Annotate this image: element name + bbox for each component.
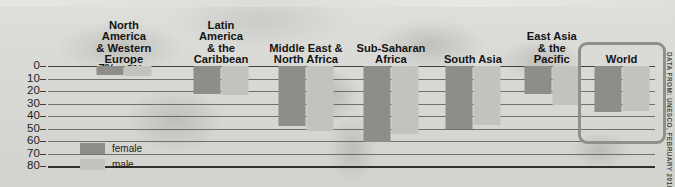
legend-item-female: female	[80, 142, 142, 155]
y-axis-tickmark-60	[40, 141, 46, 142]
bar-male[interactable]	[221, 66, 248, 95]
group-bars: 22%23%	[193, 66, 248, 166]
bar-fill	[445, 66, 472, 129]
group-label: North America & Western Europe	[76, 20, 172, 66]
group-label: World	[574, 54, 670, 66]
chart-legend: female male	[80, 142, 142, 174]
bar-fill	[363, 66, 390, 142]
y-axis-tickmark-10	[40, 79, 46, 80]
legend-swatch-male	[80, 159, 105, 170]
legend-label-male: male	[112, 159, 134, 170]
bar-fill	[96, 66, 123, 75]
legend-label-female: female	[112, 143, 142, 154]
y-axis-tickmark-40	[40, 116, 46, 117]
y-axis-tickmark-50	[40, 129, 46, 130]
group-bars: 61%54%	[363, 66, 418, 166]
bar-female[interactable]	[96, 66, 123, 75]
y-axis-tick-50: 50	[27, 123, 40, 135]
bar-fill	[306, 66, 333, 131]
y-axis-tick-80: 80	[27, 160, 40, 172]
y-axis-tick-30: 30	[27, 98, 40, 110]
bar-group-world: World37%36%	[562, 6, 675, 182]
y-axis-tick-60: 60	[27, 135, 40, 147]
y-axis-tickmark-30	[40, 104, 46, 105]
bar-female[interactable]	[278, 66, 305, 126]
bar-fill	[594, 66, 621, 112]
y-axis-tickmark-70	[40, 154, 46, 155]
bar-fill	[278, 66, 305, 126]
bar-male[interactable]	[306, 66, 333, 131]
y-axis-tickmark-80	[40, 166, 46, 167]
bar-female[interactable]	[594, 66, 621, 112]
bar-male[interactable]	[124, 66, 151, 76]
y-axis-tickmark-20	[40, 91, 46, 92]
legend-swatch-female	[80, 143, 105, 154]
y-axis-tick-40: 40	[27, 110, 40, 122]
bar-female[interactable]	[445, 66, 472, 129]
bar-male[interactable]	[622, 66, 649, 111]
source-note: DATA FROM: UNESCO, FEBRUARY 2018	[666, 52, 673, 187]
bar-female[interactable]	[193, 66, 220, 94]
group-bars: 48%52%	[278, 66, 333, 166]
bar-fill	[221, 66, 248, 95]
bar-fill	[193, 66, 220, 94]
bar-fill	[524, 66, 551, 94]
bar-fill	[622, 66, 649, 111]
legend-item-male: male	[80, 158, 142, 171]
bar-fill	[124, 66, 151, 76]
y-axis-tickmark-0	[40, 66, 46, 67]
group-bars: 37%36%	[594, 66, 649, 166]
y-axis-tick-20: 20	[27, 85, 40, 97]
bar-female[interactable]	[363, 66, 390, 142]
y-axis-tick-70: 70	[27, 148, 40, 160]
y-axis-tick-10: 10	[27, 73, 40, 85]
bar-female[interactable]	[524, 66, 551, 94]
y-axis: 01020304050607080	[0, 60, 46, 172]
